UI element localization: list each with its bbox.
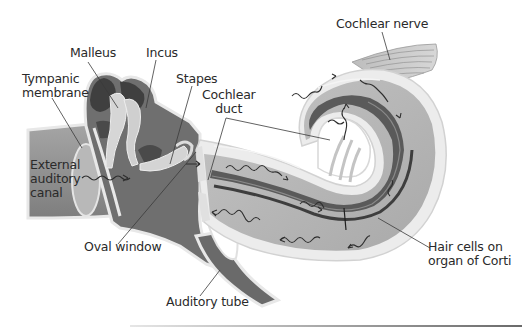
label-tympanic-membrane: Tympanic membrane [22,72,89,100]
label-line: organ of Corti [428,254,511,268]
label-line: External [30,158,80,172]
label-line: Hair cells on [428,240,511,254]
label-line: membrane [22,86,89,100]
label-line: Tympanic [22,72,89,86]
label-stapes: Stapes [176,72,217,86]
label-line: Cochlear [202,88,256,102]
label-oval-window: Oval window [84,240,162,254]
label-cochlear-nerve: Cochlear nerve [336,17,428,31]
label-line: canal [30,186,80,200]
label-external-auditory-canal: External auditory canal [30,158,80,200]
label-line: duct [202,102,256,116]
ear-anatomy-diagram: Cochlear nerve Malleus Incus Tympanic me… [0,0,522,329]
label-line: auditory [30,172,80,186]
label-hair-cells: Hair cells on organ of Corti [428,240,511,268]
label-malleus: Malleus [70,46,116,60]
label-incus: Incus [146,46,178,60]
label-cochlear-duct: Cochlear duct [202,88,256,116]
label-auditory-tube: Auditory tube [166,295,249,309]
bottom-divider [130,325,522,327]
